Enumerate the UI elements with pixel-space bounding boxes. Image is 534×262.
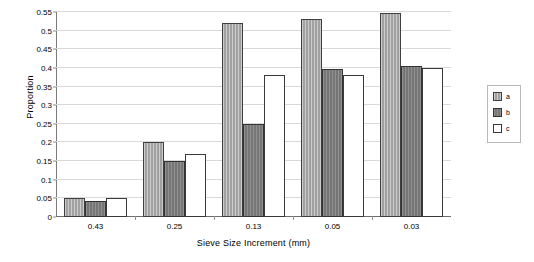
- y-axis-tick-label: 0.55: [36, 8, 52, 17]
- bar-b-0.03: [401, 66, 422, 217]
- bar-c-0.03: [422, 68, 443, 217]
- bar-a-0.03: [380, 13, 401, 217]
- plot-area: [56, 12, 451, 217]
- x-axis-title: Sieve Size Increment (mm): [56, 238, 451, 248]
- bar-b-0.13: [243, 124, 264, 217]
- legend-swatch-b: [493, 108, 502, 117]
- y-axis-tick-label: 0.1: [41, 175, 52, 184]
- bar-b-0.43: [85, 201, 106, 217]
- y-axis-tick-label: 0.5: [41, 26, 52, 35]
- y-axis-line: [56, 12, 57, 217]
- y-axis-tick-labels: 00.050.10.150.20.250.30.350.40.450.50.55: [18, 12, 56, 217]
- legend-swatch-a: [493, 92, 502, 101]
- y-axis-tick-label: 0.2: [41, 138, 52, 147]
- x-axis-tick-label: 0.13: [246, 222, 262, 231]
- x-axis-tick-label: 0.03: [404, 222, 420, 231]
- bar-a-0.43: [64, 198, 85, 217]
- bar-b-0.25: [164, 161, 185, 217]
- legend-label-b: b: [506, 109, 510, 116]
- y-axis-tick-label: 0: [48, 213, 52, 222]
- legend-item-a[interactable]: a: [493, 92, 510, 101]
- x-axis-tick-labels: 0.430.250.130.050.03: [56, 222, 451, 236]
- legend-item-b[interactable]: b: [493, 108, 510, 117]
- bar-b-0.05: [322, 69, 343, 217]
- y-axis-tick-label: 0.25: [36, 119, 52, 128]
- bar-c-0.13: [264, 75, 285, 217]
- x-axis-tick-label: 0.43: [88, 222, 104, 231]
- legend-swatch-c: [493, 124, 502, 133]
- bar-c-0.05: [343, 75, 364, 217]
- y-axis-tick-label: 0.05: [36, 194, 52, 203]
- bar-c-0.43: [106, 198, 127, 217]
- x-axis-category-separator: [214, 216, 215, 220]
- y-axis-tick-label: 0.15: [36, 157, 52, 166]
- x-axis-category-separator: [135, 216, 136, 220]
- bar-a-0.05: [301, 19, 322, 217]
- bar-c-0.25: [185, 154, 206, 217]
- legend-label-a: a: [506, 93, 510, 100]
- bar-a-0.25: [143, 142, 164, 217]
- y-axis-tick-label: 0.35: [36, 82, 52, 91]
- chart-legend: abc: [487, 85, 521, 143]
- y-axis-tick-label: 0.45: [36, 45, 52, 54]
- x-axis-tick-label: 0.05: [325, 222, 341, 231]
- x-axis-category-separator: [372, 216, 373, 220]
- legend-label-c: c: [506, 125, 510, 132]
- bar-chart: Proportion 00.050.10.150.20.250.30.350.4…: [0, 0, 534, 262]
- y-axis-tick-label: 0.4: [41, 63, 52, 72]
- x-axis-category-separator: [293, 216, 294, 220]
- bar-a-0.13: [222, 23, 243, 217]
- y-axis-tick-label: 0.3: [41, 101, 52, 110]
- legend-item-c[interactable]: c: [493, 124, 510, 133]
- x-axis-tick-label: 0.25: [167, 222, 183, 231]
